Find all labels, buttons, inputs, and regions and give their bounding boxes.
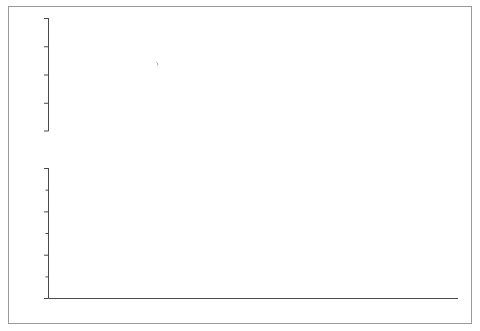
figure-canvas [0, 0, 480, 331]
bottom-panel-y-ticks [44, 169, 49, 299]
chart-page [0, 0, 480, 331]
bottom-panel [44, 168, 458, 299]
top-panel [44, 18, 158, 131]
scan-artifact-mark [157, 63, 158, 66]
top-panel-y-ticks [44, 19, 49, 132]
